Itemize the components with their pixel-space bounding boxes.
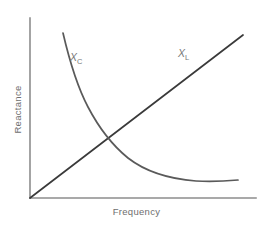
series-label-xl-subscript: L (185, 53, 189, 62)
series-label-xc-symbol: X (70, 51, 77, 63)
series-label-xl-symbol: X (178, 47, 185, 59)
series-label-xl: XL (178, 47, 189, 62)
x-axis-title: Frequency (0, 206, 273, 217)
y-axis-title: Reactance (12, 70, 23, 150)
inductive-reactance-line (30, 35, 243, 198)
series-label-xc: XC (70, 51, 82, 66)
plot-area (0, 0, 273, 229)
capacitive-reactance-curve (63, 33, 238, 181)
series-label-xc-subscript: C (77, 57, 82, 66)
reactance-frequency-chart: XC XL Frequency Reactance (0, 0, 273, 229)
